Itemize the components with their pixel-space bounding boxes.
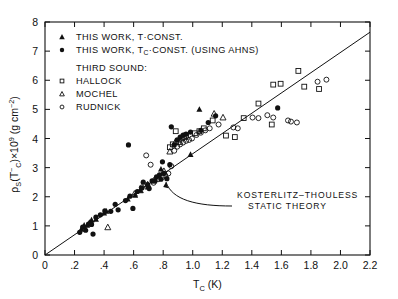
y-axis-tick-labels: 012345678 <box>32 16 38 261</box>
legend-label-this-work-t-const: THIS WORK, T·CONST. <box>76 32 183 42</box>
annotation-line-2: STATIC THEORY <box>248 201 327 211</box>
marker-filled-circle <box>102 208 107 213</box>
legend-tspan: ·CONST. <box>143 32 183 42</box>
y-axis-title-part: (T <box>8 171 20 181</box>
marker-filled-circle <box>60 48 64 52</box>
legend-tspan: ·CONST. (USING AHNS) <box>149 45 259 55</box>
marker-filled-circle <box>275 105 280 110</box>
x-tick-label: .2 <box>70 259 79 271</box>
marker-filled-circle <box>83 228 88 233</box>
x-tick-label: 1.0 <box>185 259 200 271</box>
y-tick-label: 3 <box>32 162 38 174</box>
annotation-line-1: KOSTERLITZ–THOULESS <box>237 190 358 200</box>
x-tick-label: .4 <box>100 259 109 271</box>
marker-filled-circle <box>93 215 98 220</box>
x-tick-label: 1.2 <box>215 259 230 271</box>
y-tick-label: 6 <box>32 74 38 86</box>
marker-filled-circle <box>160 159 165 164</box>
x-tick-label: .8 <box>159 259 168 271</box>
legend-label-this-work-tc-const: THIS WORK, TC·CONST. (USING AHNS) <box>76 45 259 56</box>
figure-root: 0.2.4.6.81.01.21.41.61.82.02.2 012345678… <box>0 0 398 299</box>
x-axis-title-units: (K) <box>205 278 222 290</box>
x-tick-label: 1.4 <box>245 259 260 271</box>
y-axis-title-part: −2 <box>7 100 16 108</box>
marker-filled-circle <box>89 222 94 227</box>
marker-filled-circle <box>77 230 82 235</box>
x-tick-label: 2.2 <box>363 259 378 271</box>
x-tick-label: 2.0 <box>333 259 348 271</box>
marker-filled-circle <box>113 202 118 207</box>
marker-filled-circle <box>98 212 103 217</box>
legend-label-mochel: MOCHEL <box>76 89 118 99</box>
y-tick-label: 4 <box>32 133 38 145</box>
y-tick-label: 7 <box>32 45 38 57</box>
marker-filled-circle <box>116 207 121 212</box>
scatter-plot: 0.2.4.6.81.01.21.41.61.82.02.2 012345678… <box>0 0 398 299</box>
marker-filled-circle <box>108 209 113 214</box>
y-tick-label: 2 <box>32 191 38 203</box>
legend-group-title: THIRD SOUND: <box>76 63 147 73</box>
y-axis-title-part: )×10 <box>8 141 20 162</box>
y-axis-title-part: (g cm <box>8 108 20 137</box>
y-axis-title-part: ) <box>8 96 20 100</box>
x-tick-label: 1.8 <box>304 259 319 271</box>
y-tick-label: 1 <box>32 220 38 232</box>
x-tick-label: .6 <box>129 259 138 271</box>
y-tick-label: 8 <box>32 16 38 28</box>
marker-filled-circle <box>130 206 135 211</box>
marker-filled-circle <box>123 198 128 203</box>
x-tick-label: 1.6 <box>274 259 289 271</box>
marker-filled-circle <box>141 180 146 185</box>
x-tick-label: 0 <box>42 259 48 271</box>
y-tick-label: 0 <box>32 249 38 261</box>
marker-filled-circle <box>126 142 131 147</box>
marker-filled-circle <box>90 231 95 236</box>
y-tick-label: 5 <box>32 103 38 115</box>
legend-label-hallock: HALLOCK <box>76 76 122 86</box>
legend-label-rudnick: RUDNICK <box>76 102 121 112</box>
